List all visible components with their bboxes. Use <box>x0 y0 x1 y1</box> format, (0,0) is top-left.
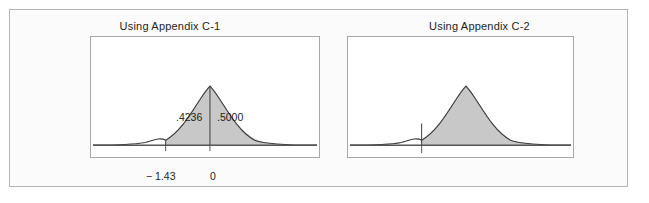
figure-frame: Using Appendix C-1 .4236 .5000 <box>9 9 628 187</box>
panel-title-appendix-c1: Using Appendix C-1 <box>10 20 330 32</box>
panel-title-appendix-c2: Using Appendix C-2 <box>330 20 629 32</box>
panel-appendix-c1: Using Appendix C-1 .4236 .5000 <box>10 10 330 186</box>
tick-label-z-negative-c1: − 1.43 <box>146 170 176 182</box>
panel-appendix-c2: Using Appendix C-2 .9236 .0764 − 1.43 <box>330 10 629 186</box>
normal-curve-chart-c2 <box>348 37 573 157</box>
tick-label-mean-c1: 0 <box>210 170 216 182</box>
area-label-left-of-mean-c1: .4236 <box>176 111 202 123</box>
plot-area-appendix-c1 <box>90 36 320 158</box>
shaded-area-right-tail-c2 <box>422 86 571 145</box>
normal-curve-chart-c1 <box>91 37 319 157</box>
area-label-right-of-mean-c1: .5000 <box>217 111 243 123</box>
plot-area-appendix-c2 <box>347 36 574 158</box>
